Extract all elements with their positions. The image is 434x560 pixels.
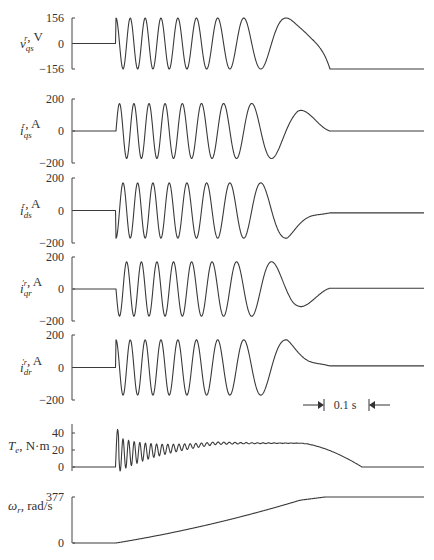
y-tick-label: 200 (46, 171, 64, 185)
trace-idr (73, 340, 424, 395)
y-tick-label: −200 (39, 236, 64, 250)
panel-te: 40200Te, N·m (8, 424, 424, 474)
y-axis-label-ids: idsr, A (20, 196, 41, 220)
panel-ids: 2000−200idsr, A (20, 171, 424, 250)
panel-iqs: 2000−200iqsr, A (20, 92, 424, 170)
y-axis-label-te: Te, N·m (8, 438, 50, 455)
scale-label: 0.1 s (334, 398, 357, 412)
figure: 1560−156vqsr, V2000−200iqsr, A2000−200id… (0, 0, 434, 560)
y-tick-label: 0 (58, 124, 64, 138)
panel-wr: 3770ωr, rad/s (8, 490, 424, 550)
trace-wr (73, 497, 424, 543)
y-axis-label-iqr: iqr′r, A (20, 274, 43, 298)
y-tick-label: 0 (58, 37, 64, 51)
y-tick-label: −200 (39, 393, 64, 407)
y-tick-label: 0 (58, 204, 64, 218)
scale-right-arrowhead (369, 401, 375, 409)
y-tick-label: −156 (39, 62, 64, 76)
y-tick-label: −200 (39, 314, 64, 328)
y-axis-label-wr: ωr, rad/s (8, 498, 52, 515)
y-tick-label: 0 (58, 536, 64, 550)
trace-te (73, 429, 424, 471)
scale-left-arrowhead (318, 401, 324, 409)
y-tick-label: 0 (58, 460, 64, 474)
trace-vqs (73, 18, 424, 69)
panel-vqs: 1560−156vqsr, V (20, 11, 424, 76)
y-tick-label: 200 (46, 250, 64, 264)
y-tick-label: 40 (52, 426, 64, 440)
y-axis-label-idr: idr′r, A (20, 353, 43, 377)
y-tick-label: 156 (46, 11, 64, 25)
y-axis-label-vqs: vqsr, V (20, 29, 44, 53)
y-tick-label: 20 (52, 443, 64, 457)
y-tick-label: 200 (46, 328, 64, 342)
y-tick-label: 0 (58, 361, 64, 375)
y-axis-label-iqs: iqsr, A (20, 116, 41, 140)
panel-idr: 2000−200idr′r, A (20, 328, 424, 407)
y-tick-label: 200 (46, 92, 64, 106)
trace-ids (73, 183, 424, 238)
y-tick-label: −200 (39, 156, 64, 170)
trace-iqr (73, 262, 424, 316)
panel-iqr: 2000−200iqr′r, A (20, 250, 424, 328)
time-scale-indicator: 0.1 s (303, 398, 390, 412)
trace-iqs (73, 104, 424, 159)
y-tick-label: 0 (58, 282, 64, 296)
